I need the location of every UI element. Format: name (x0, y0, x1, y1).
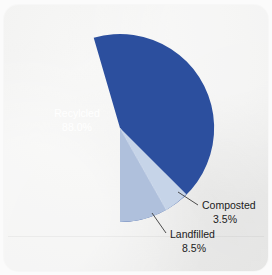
slice-label-recycled-value: 88.0% (62, 121, 92, 133)
leader-line-landfilled (152, 213, 166, 233)
slice-label-landfilled-value: 8.5% (182, 242, 206, 254)
slice-label-composted-name: Composted (202, 199, 256, 211)
slice-label-landfilled-name: Landfilled (170, 228, 215, 240)
slice-label-composted-value: 3.5% (213, 213, 237, 225)
pie-chart-svg: Recylcled 88.0% Composted 3.5% Landfille… (0, 0, 272, 275)
slice-label-recycled-name: Recylcled (54, 107, 100, 119)
pie-chart-figure: Recylcled 88.0% Composted 3.5% Landfille… (0, 0, 272, 275)
